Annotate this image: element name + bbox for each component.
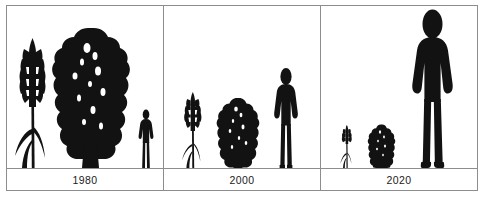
tree-icon	[216, 97, 260, 168]
human-figure-icon	[270, 67, 302, 168]
panel-label-1980: 1980	[7, 168, 163, 190]
panel-label-2020: 2020	[321, 168, 477, 190]
figure-root: 1980	[0, 0, 485, 199]
panel-2020: 2020	[320, 6, 477, 190]
wheat-stalk-icon	[339, 124, 355, 168]
wheat-stalk-icon	[13, 37, 53, 168]
human-figure-icon	[406, 8, 458, 168]
human-figure-icon	[136, 109, 156, 168]
tree-icon	[51, 26, 130, 168]
panel-1980-scene	[7, 6, 163, 168]
panel-2000-scene	[164, 6, 320, 168]
panel-2000: 2000	[163, 6, 320, 190]
wheat-stalk-icon	[180, 91, 206, 168]
panel-1980: 1980	[7, 6, 163, 190]
panel-2020-scene	[321, 6, 477, 168]
tree-icon	[367, 124, 396, 168]
panel-label-2000: 2000	[164, 168, 320, 190]
panel-frame: 1980	[6, 5, 478, 191]
